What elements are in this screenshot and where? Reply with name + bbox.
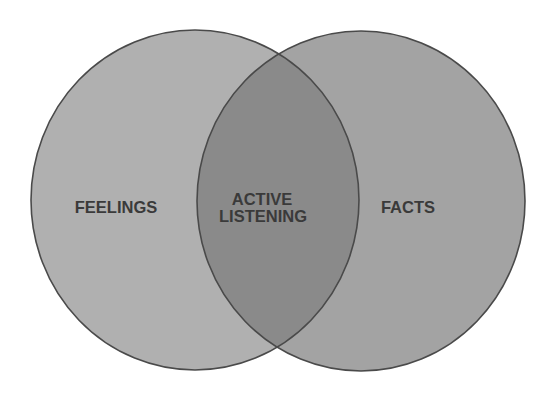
label-feelings: FEELINGS [75, 198, 158, 216]
label-facts: FACTS [381, 198, 435, 216]
venn-diagram: FEELINGS FACTS ACTIVE LISTENING [0, 0, 560, 396]
label-intersection-line2: LISTENING [219, 207, 307, 225]
label-intersection-line1: ACTIVE [232, 190, 293, 208]
